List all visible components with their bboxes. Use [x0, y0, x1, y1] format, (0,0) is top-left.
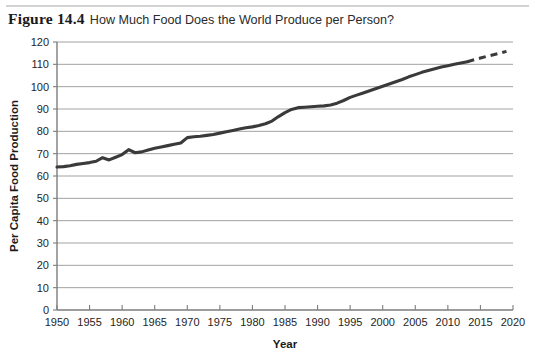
- x-tick-label: 1950: [45, 316, 69, 328]
- top-divider-rule: [6, 5, 529, 7]
- y-tick-label: 10: [37, 282, 49, 294]
- x-tick-label: 2005: [403, 316, 427, 328]
- x-tick-label: 1990: [305, 316, 329, 328]
- y-tick-label: 20: [37, 259, 49, 271]
- x-axis-title: Year: [273, 338, 298, 350]
- x-tick-label: 1965: [142, 316, 166, 328]
- x-tick-label: 1985: [273, 316, 297, 328]
- y-tick-label: 120: [31, 36, 49, 48]
- x-tick-label: 1980: [240, 316, 264, 328]
- x-tick-labels-group: 1950195519601965197019751980198519901995…: [45, 316, 525, 328]
- y-tick-labels-group: 0102030405060708090100110120: [31, 36, 49, 316]
- line-chart: 0102030405060708090100110120 19501955196…: [0, 30, 535, 360]
- x-tick-label: 2020: [501, 316, 525, 328]
- y-tick-label: 90: [37, 103, 49, 115]
- x-tick-label: 2015: [468, 316, 492, 328]
- x-tick-label: 1955: [77, 316, 101, 328]
- y-tick-label: 60: [37, 170, 49, 182]
- x-tick-label: 1960: [110, 316, 134, 328]
- y-tick-label: 80: [37, 125, 49, 137]
- x-tick-label: 1975: [208, 316, 232, 328]
- page-title: How Much Food Does the World Produce per…: [90, 13, 394, 27]
- x-tick-label: 2000: [370, 316, 394, 328]
- x-tick-label: 2010: [436, 316, 460, 328]
- y-tick-label: 70: [37, 148, 49, 160]
- x-tick-label: 1995: [338, 316, 362, 328]
- figure-container: Figure 14.4How Much Food Does the World …: [0, 0, 535, 360]
- y-tick-label: 110: [31, 58, 49, 70]
- y-tick-label: 50: [37, 192, 49, 204]
- x-tick-marks-group: [57, 305, 513, 310]
- y-tick-label: 0: [43, 304, 49, 316]
- data-line-projection: [467, 51, 506, 61]
- gridlines-group: [53, 42, 513, 310]
- y-tick-label: 40: [37, 215, 49, 227]
- y-tick-label: 30: [37, 237, 49, 249]
- data-line-observed: [57, 62, 467, 167]
- chart-area: 0102030405060708090100110120 19501955196…: [0, 30, 535, 360]
- y-tick-label: 100: [31, 81, 49, 93]
- y-axis-title: Per Capita Food Production: [8, 100, 20, 252]
- figure-number: Figure 14.4: [8, 10, 85, 27]
- figure-caption: Figure 14.4How Much Food Does the World …: [8, 9, 528, 29]
- x-tick-label: 1970: [175, 316, 199, 328]
